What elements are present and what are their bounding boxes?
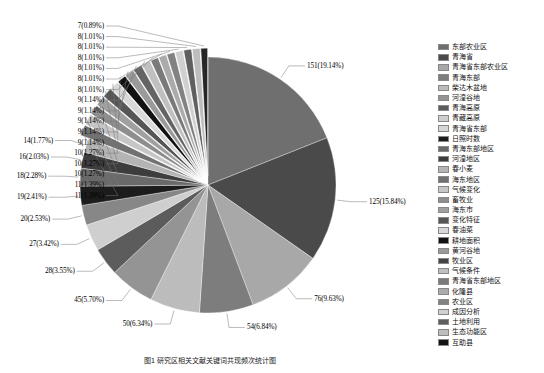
legend-item[interactable]: 耕地面积 [438,236,542,246]
legend-swatch-icon [438,288,449,295]
legend-item-label: 青海高原 [452,104,480,112]
legend-swatch-icon [438,207,449,214]
legend-swatch-icon [438,95,449,102]
legend-swatch-icon [438,329,449,336]
legend-item-label: 青海东部 [452,74,480,82]
legend-swatch-icon [438,44,449,51]
legend-item-label: 青海东部地区 [452,145,494,153]
legend-swatch-icon [438,85,449,92]
slice-label: 11(1.39%) [75,181,104,189]
legend-swatch-icon [438,125,449,132]
legend-item[interactable]: 青海省东部地区 [438,276,542,286]
slice-label: 9(1.14%) [78,117,104,125]
pie-chart-area: 151(19.14%)125(15.84%)76(9.63%)54(6.84%)… [0,0,420,350]
legend-item[interactable]: 青海东部 [438,73,542,83]
legend-item[interactable]: 土地利用 [438,317,542,327]
legend-item-label: 土地利用 [452,318,480,326]
slice-label: 27(3.42%) [29,240,59,248]
legend-item-label: 青海省东部 [452,125,487,133]
leader-line [154,310,174,324]
legend-item[interactable]: 海东市 [438,205,542,215]
legend-item[interactable]: 牧业区 [438,256,542,266]
legend-item[interactable]: 河湟地区 [438,154,542,164]
leader-line [61,239,90,245]
legend-item-label: 河湟地区 [452,155,480,163]
legend-item-label: 黄河谷地 [452,247,480,255]
slice-label: 7(0.89%) [78,22,104,30]
pie-slices [80,48,336,313]
legend-item[interactable]: 东部农业区 [438,42,542,52]
legend-item-label: 耕地面积 [452,237,480,245]
legend-item-label: 日照时数 [452,135,480,143]
legend-item[interactable]: 青海省 [438,52,542,62]
legend-item[interactable]: 成因分析 [438,307,542,317]
legend-swatch-icon [438,339,449,346]
slice-label: 76(9.63%) [314,295,344,303]
legend-swatch-icon [438,74,449,81]
slice-label: 8(1.01%) [78,43,104,51]
slice-label: 9(1.14%) [78,139,104,147]
legend-item[interactable]: 黄河谷地 [438,246,542,256]
legend-item-label: 河湟谷地 [452,94,480,102]
legend-swatch-icon [438,197,449,204]
legend-item[interactable]: 生态功能区 [438,327,542,337]
slice-label: 10(1.27%) [74,149,104,157]
legend-swatch-icon [438,319,449,326]
slice-label: 19(2.41%) [17,193,47,201]
legend-swatch-icon [438,176,449,183]
legend-item[interactable]: 青海省东部农业区 [438,62,542,72]
slice-label: 54(6.84%) [247,323,277,331]
figure-root: 151(19.14%)125(15.84%)76(9.63%)54(6.84%)… [0,0,544,373]
legend-item[interactable]: 日照时数 [438,134,542,144]
legend-item-label: 成因分析 [452,308,480,316]
legend-item[interactable]: 气候条件 [438,266,542,276]
legend-item[interactable]: 青海省东部 [438,124,542,134]
slice-label: 28(3.55%) [45,267,75,275]
slice-label: 10(1.27%) [74,170,104,178]
legend-swatch-icon [438,299,449,306]
legend-item-label: 青藏高原 [452,114,480,122]
legend-swatch-icon [438,64,449,71]
legend-swatch-icon [438,105,449,112]
legend-item-label: 青海省东部地区 [452,277,501,285]
slice-label: 18(2.28%) [17,172,47,180]
legend-item[interactable]: 青海高原 [438,103,542,113]
slice-label: 11(1.39%) [75,192,104,200]
legend-swatch-icon [438,237,449,244]
legend-item[interactable]: 化隆县 [438,287,542,297]
legend-item[interactable]: 气候变化 [438,185,542,195]
legend-item[interactable]: 河湟谷地 [438,93,542,103]
legend-item[interactable]: 青藏高原 [438,113,542,123]
slice-label: 50(6.34%) [123,320,153,328]
slice-label: 8(1.01%) [78,64,104,72]
legend-item[interactable]: 畜牧业 [438,195,542,205]
leader-line [77,263,104,271]
legend-item[interactable]: 互助县 [438,337,542,347]
legend-item-label: 气候变化 [452,186,480,194]
legend-item[interactable]: 青海东部地区 [438,144,542,154]
legend-item-label: 互助县 [452,339,473,347]
legend-swatch-icon [438,248,449,255]
legend-item-label: 东部农业区 [452,43,487,51]
legend-item-label: 化隆县 [452,288,473,296]
leader-line [52,216,82,219]
legend-item-label: 畜牧业 [452,196,473,204]
legend-item[interactable]: 农业区 [438,297,542,307]
leader-line [281,66,305,78]
legend-item[interactable]: 柴达木盆地 [438,83,542,93]
legend-item-label: 气候条件 [452,267,480,275]
legend-swatch-icon [438,166,449,173]
legend-item[interactable]: 海东地区 [438,174,542,184]
chart-legend: 东部农业区青海省青海省东部农业区青海东部柴达木盆地河湟谷地青海高原青藏高原青海省… [438,42,542,348]
legend-swatch-icon [438,227,449,234]
legend-swatch-icon [438,156,449,163]
legend-swatch-icon [438,278,449,285]
leader-line [227,314,245,328]
legend-item[interactable]: 春油菜 [438,225,542,235]
slice-label: 10(1.27%) [74,160,104,168]
legend-item-label: 春油菜 [452,226,473,234]
legend-item[interactable]: 春小麦 [438,164,542,174]
leader-line [106,289,130,300]
slice-label: 14(1.77%) [23,137,53,145]
legend-item[interactable]: 变化特征 [438,215,542,225]
